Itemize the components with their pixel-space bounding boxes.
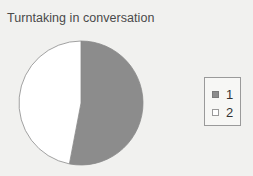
legend-label-2: 2 [226, 105, 233, 120]
legend-label-1: 1 [226, 87, 233, 102]
legend-item-2: 2 [212, 105, 233, 120]
pie-slice-2 [19, 41, 81, 164]
legend-swatch-1 [212, 91, 219, 98]
pie-slices [19, 41, 143, 165]
legend-swatch-2 [212, 109, 219, 116]
legend: 1 2 [204, 77, 241, 126]
legend-item-1: 1 [212, 87, 233, 102]
